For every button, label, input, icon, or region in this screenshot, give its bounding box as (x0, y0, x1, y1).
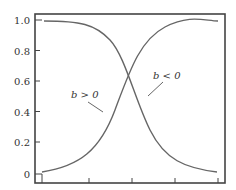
plot-frame (35, 14, 225, 183)
curve-b-positive (42, 19, 218, 172)
annotation-leader (148, 82, 163, 96)
annotation-b-positive: b > 0 (71, 89, 99, 100)
annotation-leader (88, 102, 103, 112)
curve-b-negative (44, 21, 217, 172)
y-ticks (35, 20, 42, 174)
y-tick-label: 0.4 (14, 107, 30, 118)
y-tick-label: 0.2 (14, 137, 30, 148)
y-tick-label: 0.6 (14, 76, 30, 87)
y-tick-label: 0.8 (14, 46, 30, 57)
y-tick-label: 1.0 (14, 15, 30, 26)
logistic-chart: 1.0 0.8 0.6 0.4 0.2 0 b > 0 b < 0 (0, 0, 236, 190)
y-tick-label: 0 (24, 169, 30, 180)
x-ticks (42, 174, 218, 183)
annotation-b-negative: b < 0 (153, 70, 181, 81)
